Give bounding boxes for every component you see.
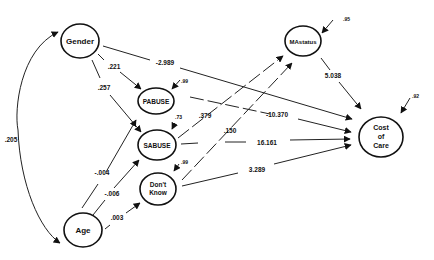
residual-cost: .92 [401, 93, 419, 113]
edge-age-dontknow: .003 [105, 203, 140, 229]
edge-label-dontknow-mastatus: .150 [224, 127, 237, 134]
svg-text:.92: .92 [412, 93, 419, 99]
svg-text:Age: Age [75, 226, 91, 235]
node-dontknow: Don't Know [140, 173, 176, 205]
node-gender: Gender [61, 24, 99, 58]
svg-text:Don't: Don't [150, 181, 167, 188]
residual-sabuse: .73 [172, 114, 182, 129]
svg-text:MAstatus: MAstatus [289, 39, 317, 45]
residual-dontknow: .99 [174, 159, 188, 171]
edge-sabuse-cost: 16.161 [181, 139, 350, 146]
svg-text:PABUSE: PABUSE [143, 98, 170, 105]
edge-label-sabuse-mastatus: .379 [199, 112, 212, 119]
svg-text:Know: Know [149, 189, 168, 196]
edge-dontknow-cost: 3.289 [182, 145, 351, 186]
edge-label-mastatus-cost: 5.038 [325, 72, 342, 79]
node-cost-of-care: Cost of Care [359, 117, 403, 157]
edge-pabuse-cost: -10.370 [190, 97, 351, 132]
svg-text:Gender: Gender [66, 37, 94, 46]
node-pabuse: PABUSE [138, 88, 174, 114]
edge-gender-age-covariance: .205 [5, 32, 60, 243]
edge-label-sabuse-cost: 16.161 [257, 139, 277, 146]
svg-text:.99: .99 [181, 159, 188, 165]
edge-sabuse-mastatus: .379 [178, 56, 283, 138]
edge-mastatus-cost: 5.038 [321, 58, 361, 109]
svg-text:Cost: Cost [373, 124, 389, 131]
svg-text:SABUSE: SABUSE [143, 142, 171, 149]
svg-text:.73: .73 [175, 114, 182, 120]
edge-gender-sabuse: .257 [92, 60, 141, 132]
svg-text:.95: .95 [343, 16, 350, 22]
edge-label-age-sabuse: -.006 [105, 190, 120, 197]
edge-label-gender-age: .205 [5, 136, 18, 143]
node-mastatus: MAstatus [285, 26, 321, 56]
edge-label-age-dontknow: .003 [111, 214, 124, 221]
node-age: Age [64, 213, 102, 247]
path-diagram: .205 .221 .257 -2.989 -.004 -.006 .003 [0, 0, 434, 260]
edge-label-dontknow-cost: 3.289 [249, 166, 266, 173]
edge-label-gender-pabuse: .221 [108, 63, 121, 70]
svg-text:.99: .99 [181, 78, 188, 84]
residual-mastatus: .95 [322, 16, 350, 33]
residual-pabuse: .99 [172, 78, 188, 89]
edge-label-pabuse-cost: -10.370 [266, 111, 288, 118]
edge-label-age-pabuse: -.004 [95, 169, 110, 176]
svg-text:of: of [378, 133, 385, 140]
edge-label-gender-sabuse: .257 [98, 84, 111, 91]
svg-text:Care: Care [373, 142, 389, 149]
node-sabuse: SABUSE [138, 130, 176, 160]
edge-label-gender-cost: -2.989 [156, 59, 175, 66]
